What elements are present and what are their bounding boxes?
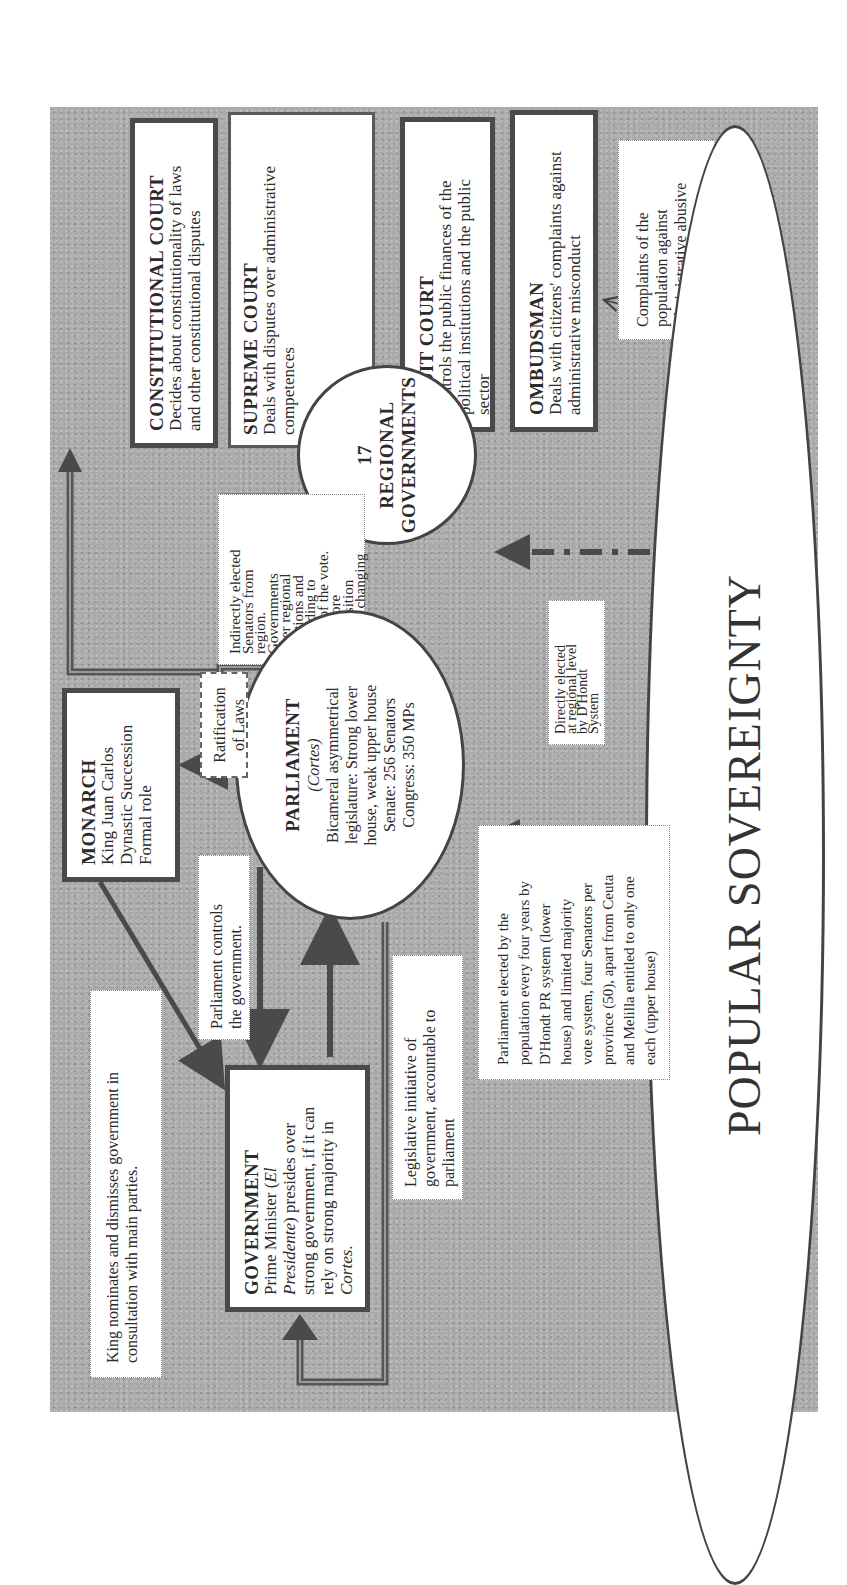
parliament-to-constitutional-court-connector xyxy=(70,462,220,672)
regional-count: 17 xyxy=(354,445,376,465)
popular-sovereignty-title: POPULAR SOVEREIGNTY xyxy=(718,574,771,1136)
government-line-1: Prime Minister (El xyxy=(261,1082,280,1295)
government-box: GOVERNMENT Prime Minister (El Presidente… xyxy=(225,1065,370,1312)
controls-line-2: the government. xyxy=(226,866,245,1029)
ratification-line-1: Ratification xyxy=(210,684,229,766)
ombudsman-box: OMBUDSMAN Deals with citizens' complaint… xyxy=(510,110,598,432)
ratification-note: Ratification of Laws xyxy=(200,672,248,778)
elected-line-8: each (upper house) xyxy=(640,840,661,1065)
audit-court-desc-2: political institutions and the public xyxy=(455,134,474,415)
ratification-line-2: of Laws xyxy=(229,684,248,766)
government-line-3: strong government, if it can xyxy=(299,1082,318,1295)
government-line-4: rely on strong majority in xyxy=(318,1082,337,1295)
parliament-title: PARLIAMENT xyxy=(282,698,304,831)
government-line-5: Cortes. xyxy=(337,1082,356,1295)
ombudsman-title: OMBUDSMAN xyxy=(527,127,546,415)
parliament-line-5: Congress: 350 MPs xyxy=(399,702,418,827)
monarch-title: MONARCH xyxy=(79,705,98,865)
regional-label-1: REGIONAL xyxy=(376,401,398,508)
directly-elected-note: Directly elected at regional level by D'… xyxy=(548,600,605,745)
king-nominates-note: King nominates and dismisses government … xyxy=(90,990,162,1378)
ombudsman-desc-2: administrative misconduct xyxy=(565,127,584,415)
government-title: GOVERNMENT xyxy=(242,1082,261,1295)
monarch-line-3: Formal role xyxy=(136,705,155,865)
elected-line-7: and Melilla entitled to only one xyxy=(619,840,640,1065)
complaints-line-1: Complaints of the xyxy=(633,153,652,327)
constitutional-court-arrowhead xyxy=(58,448,82,472)
government-line-2-italic: Presidente xyxy=(280,1223,299,1295)
elected-line-2: population every four years by xyxy=(514,840,535,1065)
government-line-1-italic: El xyxy=(261,1168,280,1183)
monarch-box: MONARCH King Juan Carlos Dynastic Succes… xyxy=(62,688,180,882)
king-line-1: King nominates and dismisses government … xyxy=(103,1005,122,1363)
constitutional-court-box: CONSTITUTIONAL COURT Decides about const… xyxy=(130,118,218,448)
constitutional-court-title: CONSTITUTIONAL COURT xyxy=(147,135,166,431)
parliament-line-2: legislature: Strong lower xyxy=(342,686,361,844)
ombudsman-desc-1: Deals with citizens' complaints against xyxy=(546,127,565,415)
legislative-line-3: parliament xyxy=(439,968,458,1187)
elected-line-6: province (50), apart from Ceuta xyxy=(598,840,619,1065)
elected-line-3: D'Hondt PR system (lower xyxy=(535,840,556,1065)
regional-label-2: GOVERNMENTS xyxy=(398,377,420,533)
government-line-2-text: ) presides over xyxy=(280,1123,299,1223)
rotated-diagram: CONSTITUTIONAL COURT Decides about const… xyxy=(50,107,818,1412)
audit-court-desc-3: sector xyxy=(474,134,493,415)
legislative-initiative-note: Legislative initiative of government, ac… xyxy=(392,955,463,1200)
parliament-line-4: Senate: 256 Senators xyxy=(380,698,399,832)
supreme-court-desc-2: competences xyxy=(279,125,298,435)
monarch-line-2: Dynastic Succession xyxy=(117,705,136,865)
popular-sovereignty-ellipse: POPULAR SOVEREIGNTY xyxy=(645,125,825,1585)
legislative-line-1: Legislative initiative of xyxy=(401,968,420,1187)
parliament-elected-note: Parliament elected by the population eve… xyxy=(478,825,670,1080)
parliament-controls-note: Parliament controls the government. xyxy=(198,855,250,1040)
parliament-ellipse: PARLIAMENT (Cortes) Bicameral asymmetric… xyxy=(235,610,465,920)
parliament-line-1: Bicameral asymmetrical xyxy=(323,687,342,843)
government-line-2: Presidente) presides over xyxy=(280,1082,299,1295)
controls-line-1: Parliament controls xyxy=(207,866,226,1029)
elected-line-5: vote system, four Senators per xyxy=(577,840,598,1065)
elected-line-1: Parliament elected by the xyxy=(493,840,514,1065)
supreme-court-title: SUPREME COURT xyxy=(241,125,260,435)
government-line-5-text: . xyxy=(337,1245,356,1249)
audit-court-desc-1: Controls the public finances of the xyxy=(436,134,455,415)
elected-line-4: house) and limited majority xyxy=(556,840,577,1065)
government-line-5-italic: Cortes xyxy=(337,1250,356,1295)
constitutional-court-desc-2: and other constitutional disputes xyxy=(185,135,204,431)
parliament-subtitle: (Cortes) xyxy=(304,738,323,791)
government-line-1-text: Prime Minister ( xyxy=(261,1183,280,1295)
government-loop-arrowhead xyxy=(282,1314,318,1340)
monarch-line-1: King Juan Carlos xyxy=(98,705,117,865)
legislative-line-2: government, accountable to xyxy=(420,968,439,1187)
complaints-line-2: population against xyxy=(652,153,671,327)
constitutional-court-desc-1: Decides about constitutionality of laws xyxy=(166,135,185,431)
parliament-line-3: house, weak upper house xyxy=(361,685,380,846)
king-line-2: consultation with main parties. xyxy=(122,1005,141,1363)
supreme-court-desc-1: Deals with disputes over administrative xyxy=(260,125,279,435)
